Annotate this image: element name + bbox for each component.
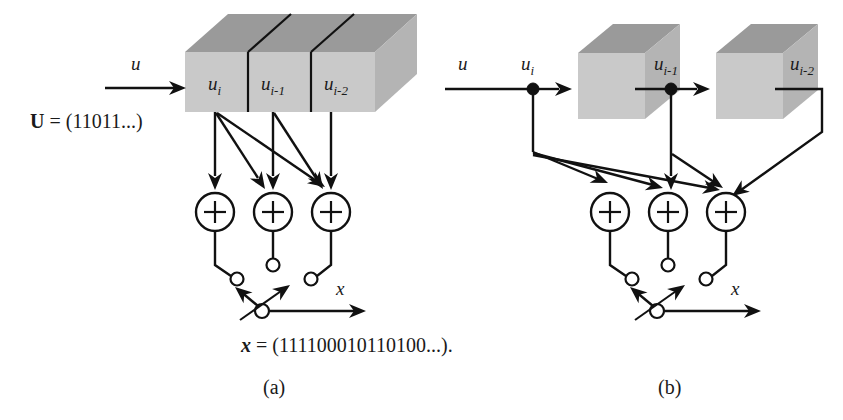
convolutional-encoder-diagram: ui ui-1 ui-2 u U = (11011...) [0, 0, 843, 420]
adder-a-0-output-wire [215, 231, 231, 276]
adder-a-1 [254, 193, 292, 231]
input-label-a: u [131, 53, 141, 74]
figure-container: ui ui-1 ui-2 u U = (11011...) [0, 0, 843, 420]
adder-b-1 [649, 193, 687, 231]
input-label-b: u [458, 53, 468, 74]
adder-b-0-output-wire [610, 231, 626, 276]
tap-wire-a-0-to-adder-2 [217, 113, 315, 180]
adder-a-2-output-wire [317, 231, 331, 276]
adder-b-0 [591, 193, 629, 231]
commutator-rotation-arrowhead-b [667, 279, 689, 300]
fan-wire-b-0-to-adder-2 [533, 155, 710, 188]
commutator-rotation-arrowhead-a [272, 279, 294, 300]
panel-a: ui ui-1 ui-2 u U = (11011...) [30, 14, 453, 399]
tap-wire-a-1-to-adder-2 [274, 113, 316, 178]
tap-arrowhead-a-0-1 [250, 171, 271, 193]
adder-b-2-output-wire [712, 231, 726, 276]
commutator-contact-b-0 [626, 273, 639, 286]
commutator-contact-b-1 [662, 259, 675, 272]
tap-label-b-0: ui [521, 53, 535, 78]
fan-wire-b-1-to-adder-2 [672, 154, 714, 182]
commutator-contact-b-2 [700, 273, 713, 286]
adder-a-0 [196, 193, 234, 231]
delay-cube-b-1-front-face [716, 53, 783, 119]
caption-a: (a) [263, 376, 285, 399]
adder-a-2 [312, 193, 350, 231]
delay-cube-b-0-front-face [578, 53, 645, 119]
tap-wire-a-0-to-adder-1 [216, 113, 258, 178]
commutator-contact-a-1 [267, 259, 280, 272]
panel-b: u ui ui-1 ui-2 [445, 24, 822, 399]
commutator-contact-a-0 [231, 273, 244, 286]
output-label-b: x [730, 278, 740, 299]
output-sequence-a: x = (111100010110100...). [240, 334, 453, 357]
input-sequence-a: U = (11011...) [30, 110, 143, 133]
caption-b: (b) [658, 376, 681, 399]
adder-b-2 [707, 193, 745, 231]
output-label-a: x [335, 278, 345, 299]
commutator-contact-a-2 [305, 273, 318, 286]
